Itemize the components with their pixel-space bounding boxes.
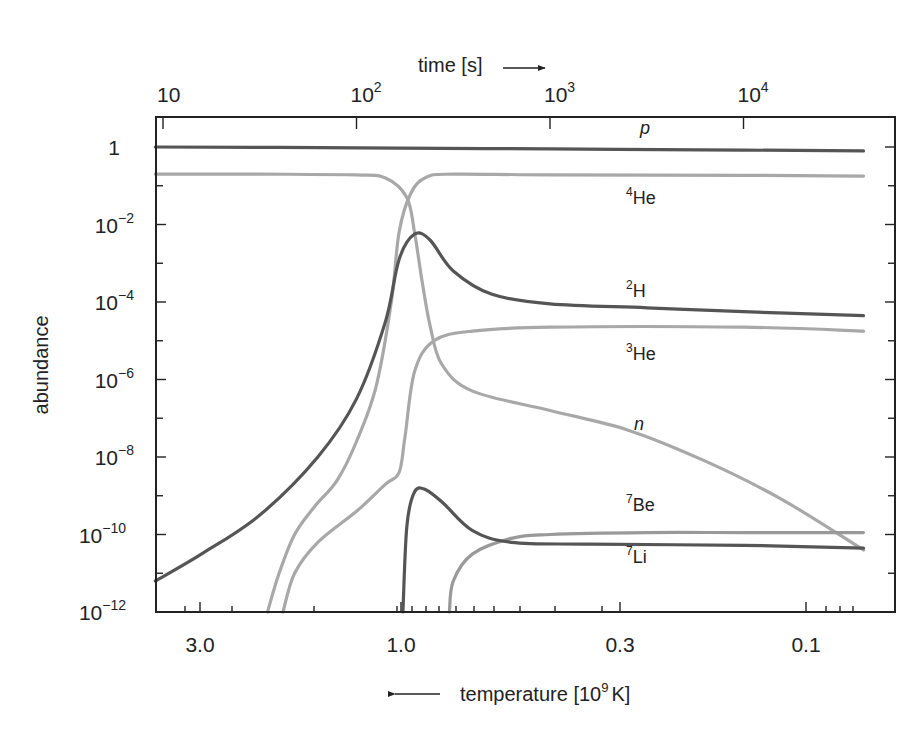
abundance-curves [155,147,863,612]
species-label: 7Be [626,492,655,515]
species-label: p [639,118,650,138]
species-label: n [634,414,644,434]
bottom-axis-title: temperature [109K] [395,680,630,705]
bottom-axis-label: temperature [109K] [460,680,630,705]
top-tick-label: 104 [738,79,769,106]
y-axis-label: abundance [30,316,52,415]
bbn-abundance-chart: time [s] temperature [109K] abundance 10… [0,0,922,734]
axis-ticks [156,117,895,612]
species-label: 4He [626,185,656,208]
y-tick-label: 10−10 [79,520,126,547]
top-axis-label: time [s] [418,54,482,76]
bottom-tick-label: 0.3 [605,633,634,656]
y-tick-label: 1 [108,136,120,159]
plot-frame [156,117,895,612]
top-tick-label: 10 [157,83,180,106]
y-tick-label: 10−4 [95,287,135,314]
axis-tick-labels: 10102103104110−210−410−610−810−1010−123.… [79,79,821,656]
y-tick-label: 10−2 [95,210,135,237]
bottom-tick-label: 3.0 [185,633,214,656]
species-label: 2H [626,278,646,301]
curve-4He [155,174,863,550]
curve-p [155,147,863,151]
bottom-tick-label: 1.0 [386,633,415,656]
bottom-tick-label: 0.1 [791,633,820,656]
species-label: 7Li [626,544,647,567]
y-tick-label: 10−12 [79,597,126,624]
y-tick-label: 10−6 [95,365,135,392]
y-tick-label: 10−8 [95,442,135,469]
curve-2H [155,233,863,581]
top-tick-label: 103 [544,79,575,106]
species-label: 3He [626,341,656,364]
top-axis-title: time [s] [418,54,545,76]
species-labels: p4He2H3Hen7Be7Li [626,118,656,567]
top-tick-label: 102 [351,79,382,106]
